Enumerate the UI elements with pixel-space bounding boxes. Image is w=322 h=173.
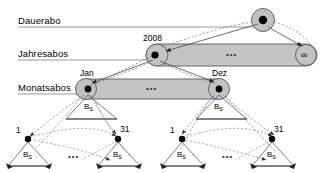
dauerabo-root-node[interactable] xyxy=(252,9,275,32)
triangle-label-bs-jan: BS xyxy=(84,102,93,111)
level-label-jahresabos: Jahresabos xyxy=(18,48,68,59)
month-first-node[interactable] xyxy=(76,79,97,100)
node-label-day-1-right: 1 xyxy=(170,125,175,135)
day-first-right-node[interactable] xyxy=(179,136,185,142)
level-label-dauerabo: Dauerabo xyxy=(18,15,61,26)
bs-sub: S xyxy=(219,106,223,112)
node-label-year-2008: 2008 xyxy=(143,33,162,43)
triangle-label-bs-day1-left: BS xyxy=(23,150,32,159)
month-last-node[interactable] xyxy=(209,79,230,100)
triangle-label-bs-day31-left: BS xyxy=(113,150,122,159)
triangle-label-bs-day31-right: BS xyxy=(267,150,276,159)
bs-sub: S xyxy=(28,154,32,160)
level-label-monatsabos: Monatsabos xyxy=(18,82,71,93)
triangle-label-bs-day1-right: BS xyxy=(177,150,186,159)
bs-sub: S xyxy=(272,154,276,160)
bs-sub: S xyxy=(182,154,186,160)
ellipsis-monatsabos: ••• xyxy=(146,84,157,93)
triangle-label-bs-dez: BS xyxy=(214,102,223,111)
day-last-right-node[interactable] xyxy=(269,136,275,142)
bottom-arrowheads xyxy=(6,163,296,169)
ellipsis-days-right: ••• xyxy=(222,152,233,161)
node-label-day-31-left: 31 xyxy=(120,124,129,134)
bs-sub: S xyxy=(89,106,93,112)
node-label-day-1-left: 1 xyxy=(16,125,21,135)
bs-sub: S xyxy=(118,154,122,160)
ellipsis-days-left: ••• xyxy=(68,152,79,161)
day-first-left-node[interactable] xyxy=(25,136,31,142)
edges-dez-to-days xyxy=(180,95,276,152)
diagram-canvas: Dauerabo Jahresabos Monatsabos 2008 ∞ Ja… xyxy=(0,0,322,173)
edges-cross-dashed xyxy=(30,128,272,160)
node-label-month-jan: Jan xyxy=(80,68,94,78)
node-label-month-dez: Dez xyxy=(212,68,227,78)
day-last-left-node[interactable] xyxy=(115,136,121,142)
node-label-year-infinity: ∞ xyxy=(301,50,307,60)
ellipsis-jahresabos: ••• xyxy=(226,50,237,59)
node-label-day-31-right: 31 xyxy=(274,124,283,134)
